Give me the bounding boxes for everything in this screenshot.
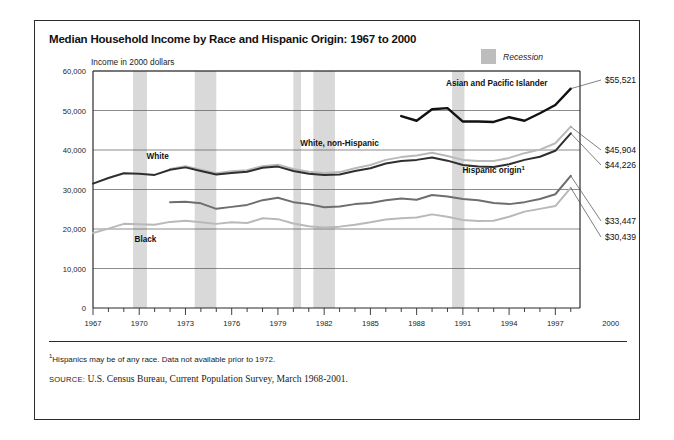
x-tick-label: 1994	[501, 319, 518, 328]
series-label-footnote: 1	[522, 165, 526, 171]
line-chart-plot: 010,00020,00030,00040,00050,00060,000196…	[35, 21, 641, 351]
x-tick-label: 1988	[408, 319, 425, 328]
x-axis-end-label: 2000	[602, 319, 619, 328]
y-tick-label: 40,000	[63, 146, 86, 155]
y-tick-label: 0	[82, 304, 86, 313]
series-line-hispanic-origin	[170, 176, 571, 209]
series-label: Black	[134, 235, 156, 244]
y-tick-label: 50,000	[63, 107, 86, 116]
y-tick-label: 60,000	[63, 67, 86, 76]
x-tick-label: 1979	[269, 319, 286, 328]
x-tick-label: 1997	[547, 319, 564, 328]
x-tick-label: 1976	[223, 319, 240, 328]
figure-frame: Median Household Income by Race and Hisp…	[34, 20, 640, 420]
end-value-label: $33,447	[605, 216, 636, 226]
leader-line	[571, 80, 601, 89]
source-text: U.S. Census Bureau, Current Population S…	[87, 373, 348, 384]
x-tick-label: 1985	[362, 319, 379, 328]
end-value-label: $45,904	[605, 145, 636, 155]
source-label: SOURCE:	[49, 375, 85, 384]
leader-line	[571, 188, 601, 237]
series-label: Asian and Pacific Islander	[446, 79, 548, 88]
source-note: SOURCE: U.S. Census Bureau, Current Popu…	[49, 373, 348, 384]
x-tick-label: 1991	[454, 319, 471, 328]
end-value-label: $30,439	[605, 232, 636, 242]
series-line-asian-and-pacific-islander	[401, 89, 571, 122]
series-label: White, non-Hispanic	[300, 139, 379, 148]
y-tick-label: 10,000	[63, 265, 86, 274]
footnote: 1Hispanics may be of any race. Data not …	[49, 353, 275, 364]
x-axis-ticks: 1967197019731976197919821985198819911994…	[85, 308, 620, 328]
end-value-label: $44,226	[605, 160, 636, 170]
series-label: White	[147, 152, 170, 161]
x-tick-label: 1973	[177, 319, 194, 328]
x-tick-label: 1970	[131, 319, 148, 328]
footnote-body: Hispanics may be of any race. Data not a…	[52, 355, 275, 364]
end-value-label: $55,521	[605, 75, 636, 85]
y-tick-label: 20,000	[63, 225, 86, 234]
x-tick-label: 1982	[316, 319, 333, 328]
footnote-divider	[49, 341, 627, 342]
x-tick-label: 1967	[85, 319, 102, 328]
y-tick-label: 30,000	[63, 186, 86, 195]
series-label: Hispanic origin1	[462, 165, 525, 175]
leader-line	[571, 176, 601, 221]
